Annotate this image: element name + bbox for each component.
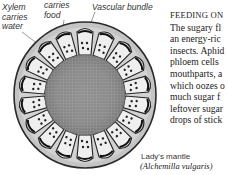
plant-latin-name: (Alchemilla vulgaris) (140, 162, 212, 172)
article-line: phloem cells (170, 56, 227, 68)
article-line: much sugar f (170, 91, 227, 103)
xylem-label: Xylem carries water (2, 3, 28, 32)
vascular-bundle-label: Vascular bundle (92, 3, 153, 13)
article-line: which oozes o (170, 80, 227, 92)
article-heading: FEEDING ON (170, 10, 227, 22)
article-line: The sugary fl (170, 22, 227, 34)
article-line: an energy-ric (170, 33, 227, 45)
article-line: leftover sugar (170, 103, 227, 115)
article-line: insects. Aphid (170, 45, 227, 57)
article-text: FEEDING ON The sugary fl an energy-ric i… (170, 10, 227, 126)
phloem-label: carries food (44, 1, 70, 20)
article-line: mouthparts, a (170, 68, 227, 80)
article-line: drops of stick (170, 114, 227, 126)
plant-common-name: Lady's mantle (141, 152, 190, 161)
